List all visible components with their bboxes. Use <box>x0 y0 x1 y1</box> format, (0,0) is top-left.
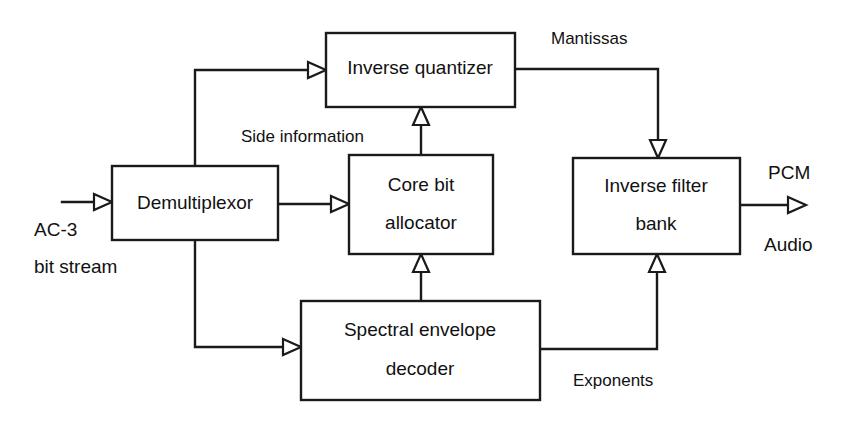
edge-exponents <box>540 262 657 349</box>
node-spectral-envelope-decoder[interactable]: Spectral envelope decoder <box>301 301 540 400</box>
edge-demux-to-spectral-envelope-decoder <box>195 240 293 347</box>
edge-demux-to-inverse-quantizer <box>195 70 318 166</box>
diagram-canvas: Demultiplexor Inverse quantizer Core bit… <box>0 0 859 425</box>
node-demultiplexor-label: Demultiplexor <box>137 192 254 213</box>
node-inverse-filter-bank-label-line1: Inverse filter <box>604 175 708 196</box>
node-core-bit-allocator-label-line1: Core bit <box>388 174 455 195</box>
node-spectral-envelope-decoder-label-line1: Spectral envelope <box>344 319 496 340</box>
node-inverse-quantizer-label: Inverse quantizer <box>347 57 493 78</box>
node-spectral-envelope-decoder-box[interactable] <box>301 301 540 400</box>
node-inverse-quantizer[interactable]: Inverse quantizer <box>326 33 515 107</box>
node-inverse-filter-bank-label-line2: bank <box>635 213 677 234</box>
edge-mantissas <box>515 69 658 150</box>
node-spectral-envelope-decoder-label-line2: decoder <box>386 358 455 379</box>
node-inverse-filter-bank-box[interactable] <box>573 158 740 254</box>
arrowhead-demux-to-spectral-envelope-decoder <box>283 339 301 355</box>
arrowhead-mantissas <box>650 140 666 158</box>
ac3-decoder-diagram: Demultiplexor Inverse quantizer Core bit… <box>0 0 859 425</box>
node-inverse-filter-bank[interactable]: Inverse filter bank <box>573 158 740 254</box>
node-core-bit-allocator-box[interactable] <box>349 155 493 254</box>
arrowhead-output-pcm-audio <box>788 197 806 213</box>
io-label-input-line1: AC-3 <box>34 219 77 240</box>
node-core-bit-allocator-label-line2: allocator <box>385 212 457 233</box>
node-core-bit-allocator[interactable]: Core bit allocator <box>349 155 493 254</box>
io-label-output-line2: Audio <box>764 234 813 255</box>
node-demultiplexor[interactable]: Demultiplexor <box>112 166 278 240</box>
edge-label-mantissas: Mantissas <box>551 29 628 48</box>
arrowhead-demux-to-core-bit-allocator <box>331 196 349 212</box>
arrowhead-spectral-envelope-to-core-bit-allocator <box>413 254 429 272</box>
edge-label-exponents: Exponents <box>573 371 653 390</box>
arrowhead-core-bit-allocator-to-inverse-quantizer <box>413 107 429 125</box>
edge-label-side-information: Side information <box>241 127 364 146</box>
arrowhead-exponents <box>649 254 665 272</box>
arrowhead-demux-to-inverse-quantizer <box>308 62 326 78</box>
io-label-output-line1: PCM <box>768 162 810 183</box>
arrowhead-input-to-demultiplexor <box>94 194 112 210</box>
io-label-input-line2: bit stream <box>34 256 117 277</box>
